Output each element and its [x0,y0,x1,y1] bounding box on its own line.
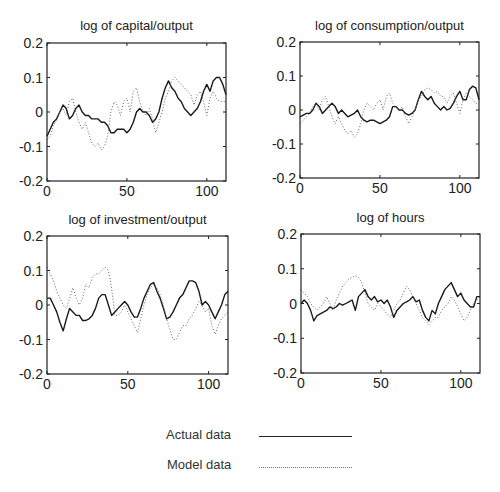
x-tick-label: 50 [373,375,389,391]
x-tick-label: 0 [297,375,305,391]
y-tick-label: -0.2 [273,365,297,381]
y-tick-label: 0.1 [278,261,298,277]
actual-data-line [301,283,480,321]
panel-hours: log of hours -0.2-0.100.10.2050100 [0,0,500,420]
y-tick-label: 0.2 [278,226,298,242]
legend-label-model: Model data [167,457,231,472]
y-tick-label: 0 [289,296,297,312]
y-tick-label: -0.1 [273,330,297,346]
model-data-line [301,276,480,325]
x-tick-label: 100 [449,375,473,391]
plot-frame [301,234,480,373]
legend-label-actual: Actual data [166,427,231,442]
plot-area: -0.2-0.100.10.2050100 [0,0,500,420]
legend-line-actual [259,436,352,437]
legend-line-model [259,467,352,468]
